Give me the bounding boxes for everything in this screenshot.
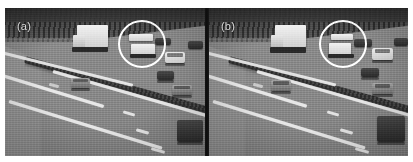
vehicle-windshield bbox=[174, 86, 189, 90]
vehicle-dark-foreground bbox=[377, 116, 405, 142]
vehicle-windshield bbox=[167, 53, 182, 57]
vehicle-silver-car-left-lane bbox=[71, 78, 90, 88]
figure-two-panel-traffic: (a) bbox=[0, 0, 413, 162]
vehicle-shadow bbox=[177, 142, 203, 145]
panel-a: (a) bbox=[5, 8, 205, 156]
highlight-circle-a bbox=[118, 20, 166, 68]
vehicle-shadow bbox=[172, 95, 192, 98]
vehicle-white-box-truck-underbody bbox=[270, 47, 306, 53]
scene-a: (a) bbox=[5, 8, 205, 156]
vehicle-shadow bbox=[377, 142, 405, 145]
vehicle-shadow bbox=[372, 94, 393, 97]
scene-b: (b) bbox=[209, 8, 408, 156]
vehicle-windshield bbox=[375, 49, 391, 54]
vehicle-shadow bbox=[372, 60, 393, 63]
vehicle-windshield bbox=[375, 84, 391, 88]
vehicle-dark-far-right bbox=[394, 38, 408, 46]
vehicle-shadow bbox=[157, 80, 174, 83]
vehicle-white-box-truck-underbody bbox=[72, 47, 108, 52]
highlight-circle-b bbox=[319, 20, 367, 68]
vehicle-windshield bbox=[73, 79, 87, 83]
vehicle-shadow bbox=[71, 88, 90, 91]
vehicle-shadow bbox=[165, 63, 185, 66]
vehicle-dark-far-right bbox=[188, 41, 203, 49]
vehicle-shadow bbox=[361, 77, 379, 80]
background-treeline-shadow bbox=[209, 8, 408, 22]
vehicle-dark-car-right-lane bbox=[361, 68, 379, 77]
vehicle-silver-car-right-lane bbox=[172, 85, 192, 95]
vehicle-dark-foreground bbox=[177, 120, 203, 142]
vehicle-silver-car-right-lane bbox=[372, 83, 393, 94]
vehicle-white-van-right bbox=[165, 52, 185, 63]
vehicle-windshield bbox=[273, 81, 288, 85]
panel-b: (b) bbox=[209, 8, 408, 156]
vehicle-dark-car-right-lane bbox=[157, 71, 174, 80]
panel-b-label: (b) bbox=[221, 21, 235, 32]
background-treeline-shadow bbox=[5, 8, 205, 22]
vehicle-silver-car-left-lane bbox=[271, 80, 291, 91]
vehicle-shadow bbox=[271, 91, 291, 94]
vehicle-white-van-right bbox=[372, 48, 393, 60]
panel-a-label: (a) bbox=[17, 21, 31, 32]
